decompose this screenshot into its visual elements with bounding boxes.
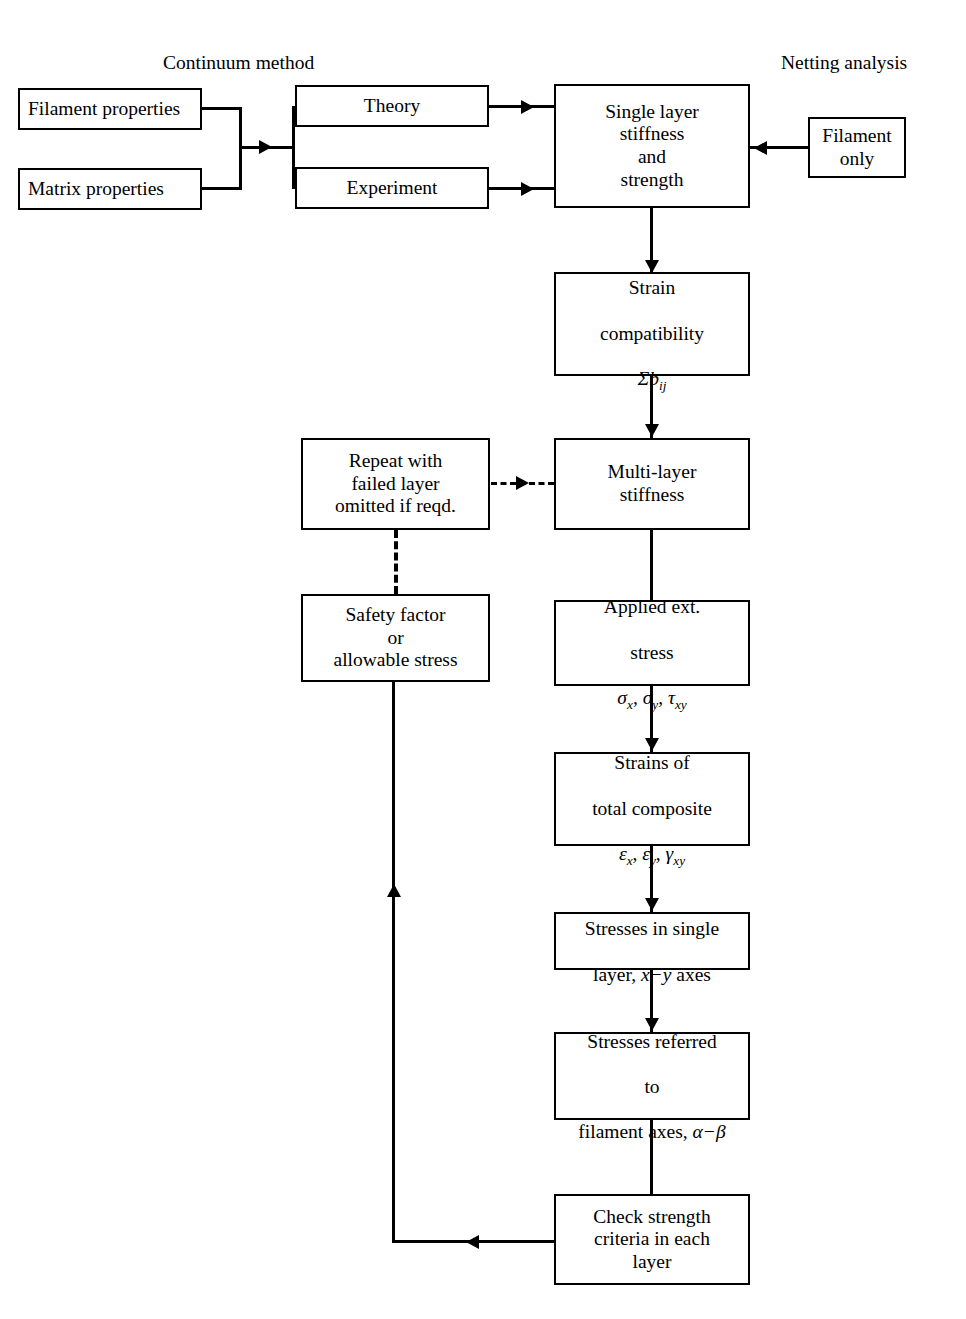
stresses-referred-prefix: filament axes, [578,1121,692,1142]
xy-axes-symbol: x−y [641,964,671,985]
applied-formula: σx, σy, τxy [617,687,686,708]
node-safety-factor[interactable]: Safety factor or allowable stress [301,594,490,682]
strain-formula-subscript: ij [659,378,666,393]
node-stresses-referred-filament-axes[interactable]: Stresses referred to filament axes, α−β [554,1032,750,1120]
epsilon-y-subscript: y [650,853,656,868]
node-single-layer-stiffness-strength[interactable]: Single layer stiffness and strength [554,84,750,208]
node-single-layer-label: Single layer stiffness and strength [560,101,744,191]
node-stresses-single-layer[interactable]: Stresses in single layer, x−y axes [554,912,750,970]
stresses-single-line-1: Stresses in single [585,918,719,939]
strains-formula: εx, εy, γxy [619,843,685,864]
node-repeat-label: Repeat with failed layer omitted if reqd… [307,450,484,518]
node-stresses-single-label: Stresses in single layer, x−y axes [560,896,744,986]
sigma-x-symbol: σ [617,687,627,708]
alpha-beta-axes-symbol: α−β [693,1121,726,1142]
sigma-x-subscript: x [627,697,633,712]
epsilon-x-symbol: ε [619,843,627,864]
strains-line-2: total composite [592,798,712,819]
node-experiment-label: Experiment [301,177,483,200]
node-applied-ext-stress[interactable]: Applied ext. stress σx, σy, τxy [554,600,750,686]
stresses-referred-line-2: to [644,1076,659,1097]
stresses-single-suffix: axes [671,964,711,985]
node-applied-ext-stress-label: Applied ext. stress σx, σy, τxy [560,574,744,712]
arrowhead-experiment-to-single-layer [521,182,534,196]
heading-continuum-method: Continuum method [163,52,314,74]
stresses-referred-line-3: filament axes, α−β [578,1121,725,1142]
node-matrix-properties-label: Matrix properties [28,178,196,201]
strain-line-1: Strain [629,277,676,298]
applied-line-1: Applied ext. [604,596,700,617]
node-filament-properties-label: Filament properties [28,98,196,121]
arrowhead-strain-to-multilayer [645,424,659,437]
strain-formula-symbol: Σb [638,368,659,389]
epsilon-x-subscript: x [627,853,633,868]
stresses-single-line-2: layer, x−y axes [593,964,711,985]
node-stresses-referred-label: Stresses referred to filament axes, α−β [560,1008,744,1144]
strain-formula: Σbij [638,368,667,389]
node-repeat-with-failed-layer[interactable]: Repeat with failed layer omitted if reqd… [301,438,490,530]
connector-feedback-vertical [392,682,395,1242]
node-multi-layer-label: Multi-layer stiffness [560,461,744,506]
stresses-referred-line-1: Stresses referred [587,1031,716,1052]
arrowhead-theory-to-single-layer [521,100,534,114]
node-check-strength-criteria[interactable]: Check strength criteria in each layer [554,1194,750,1285]
node-strains-total-composite[interactable]: Strains of total composite εx, εy, γxy [554,752,750,846]
node-strain-compatibility-label: Strain compatibility Σbij [560,255,744,393]
node-theory[interactable]: Theory [295,85,489,127]
stresses-single-prefix: layer, [593,964,641,985]
arrowhead-repeat-to-multilayer [516,476,529,490]
strains-line-1: Strains of [614,752,689,773]
node-filament-properties[interactable]: Filament properties [18,88,202,130]
sigma-y-subscript: y [652,697,658,712]
node-strain-compatibility[interactable]: Strain compatibility Σbij [554,272,750,376]
node-safety-factor-label: Safety factor or allowable stress [307,604,484,672]
tau-xy-subscript: xy [675,697,687,712]
gamma-xy-subscript: xy [673,853,685,868]
arrowhead-filament-only-to-single-layer [754,141,767,155]
node-experiment[interactable]: Experiment [295,167,489,209]
node-strains-label: Strains of total composite εx, εy, γxy [560,730,744,868]
node-multi-layer-stiffness[interactable]: Multi-layer stiffness [554,438,750,530]
node-matrix-properties[interactable]: Matrix properties [18,168,202,210]
sigma-y-symbol: σ [643,687,653,708]
tau-xy-symbol: τ [668,687,675,708]
arrowhead-check-strength-feedback [466,1235,479,1249]
arrowhead-bus-to-split [259,140,272,154]
flowchart-canvas: Continuum method Netting analysis Filame… [0,0,966,1319]
connector-filament-to-bus [200,107,242,110]
strain-line-2: compatibility [600,323,704,344]
heading-netting-analysis: Netting analysis [781,52,907,74]
connector-repeat-to-safety-factor [394,530,398,594]
node-check-strength-label: Check strength criteria in each layer [560,1206,744,1274]
connector-matrix-to-bus [200,187,242,190]
node-theory-label: Theory [301,95,483,118]
node-filament-only[interactable]: Filament only [808,117,906,178]
node-filament-only-label: Filament only [814,125,900,170]
applied-line-2: stress [630,642,673,663]
arrowhead-feedback-to-safety-factor [387,884,401,897]
epsilon-y-symbol: ε [642,843,650,864]
